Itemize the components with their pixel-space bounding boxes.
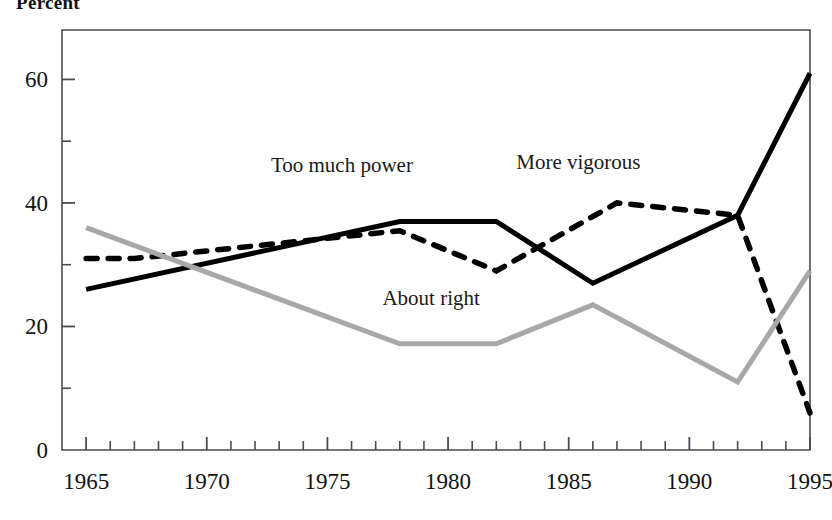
x-tick-label: 1995 [787,469,832,494]
y-axis-tick-labels: 0204060 [25,67,48,463]
series-inline-labels: Too much powerMore vigorousAbout right [271,150,641,310]
y-tick-label: 40 [25,191,48,216]
series-label-3: About right [382,286,480,310]
x-tick-label: 1975 [304,469,350,494]
series-label-2: More vigorous [516,150,640,174]
chart-container: Percent 0204060 196519701975198019851990… [0,0,832,520]
plot-frame [62,30,810,450]
x-tick-label: 1980 [425,469,471,494]
y-tick-label: 0 [37,438,49,463]
x-tick-label: 1990 [666,469,712,494]
y-tick-label: 60 [25,67,48,92]
x-tick-label: 1985 [546,469,592,494]
x-axis-ticks [86,437,810,450]
x-tick-label: 1965 [63,469,109,494]
x-tick-label: 1970 [184,469,230,494]
data-series-lines [86,73,810,413]
y-tick-label: 20 [25,314,48,339]
series-label-1: Too much power [271,153,413,177]
series-line-1 [86,73,810,289]
x-axis-tick-labels: 1965197019751980198519901995 [63,469,832,494]
line-chart-plot: 0204060 1965197019751980198519901995 Too… [0,0,832,520]
y-axis-ticks [62,79,75,388]
